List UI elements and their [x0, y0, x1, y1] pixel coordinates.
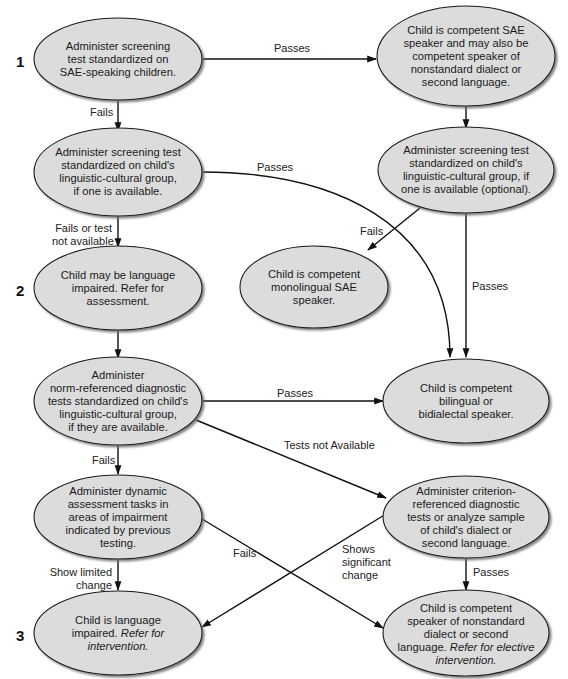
- text-line: change: [44, 579, 112, 592]
- text-line: assessment.: [61, 295, 175, 308]
- level-2-label: 2: [16, 282, 24, 299]
- node-text-may-be-impaired: Child may be languageimpaired. Refer for…: [44, 262, 192, 314]
- edge-label-passes-2: Passes: [257, 161, 293, 174]
- edge-norm-referenced-to-criterion-referenced: [196, 420, 386, 498]
- text-line: areas of impairment: [65, 511, 170, 524]
- node-text-competent-sae: Child is competent SAEspeaker and may al…: [386, 22, 546, 90]
- text-line: second language.: [407, 537, 525, 550]
- edge-label-passes-5: Passes: [473, 566, 509, 579]
- text-line: linguistic-cultural group,: [48, 408, 188, 421]
- text-line: not available: [52, 235, 112, 248]
- edge-label-fails-3: Fails: [92, 454, 115, 467]
- text-line: significant: [342, 556, 391, 569]
- text-line: nonstandard dialect or: [403, 63, 528, 76]
- node-text-impaired: Child is language impaired. Refer for in…: [44, 607, 192, 659]
- text-line: standardized on child's: [401, 157, 531, 170]
- text-line: dialect or second: [398, 628, 535, 641]
- node-text-competent-nonstandard: Child is competent speaker of nonstandar…: [390, 599, 542, 669]
- edge-label-fails-2: Fails: [360, 225, 383, 238]
- text-line: norm-referenced diagnostic: [48, 382, 188, 395]
- text-line: speaker and may also be: [403, 37, 528, 50]
- text-line: bidialectal speaker.: [418, 408, 513, 421]
- text-normal: language.: [398, 641, 447, 653]
- node-text-norm-referenced: Administernorm-referenced diagnostictest…: [36, 366, 200, 436]
- node-text-bilingual: Child is competentbilingual orbidialecta…: [396, 375, 536, 427]
- text-line: linguistic-cultural group,: [55, 172, 181, 185]
- text-line: referenced diagnostic: [407, 498, 525, 511]
- text-line: standardized on child's: [55, 159, 181, 172]
- edge-label-show-limited-change: Show limited change: [44, 566, 112, 592]
- text-line: SAE-speaking children.: [60, 66, 176, 79]
- text-line: if one is available.: [55, 185, 181, 198]
- text-line: speaker.: [268, 294, 360, 307]
- text-line: monolingual SAE: [268, 281, 360, 294]
- text-line: if they are available.: [48, 421, 188, 434]
- text-line: Child may be language: [61, 269, 175, 282]
- text-line: second language.: [403, 76, 528, 89]
- text-line: one is available (optional).: [401, 183, 531, 196]
- text-italic-referral: Refer for elective: [450, 641, 535, 653]
- node-text-dynamic-assessment: Administer dynamicassessment tasks inare…: [44, 482, 192, 552]
- text-italic-referral: Refer for: [121, 627, 165, 639]
- text-line: impaired. Refer for: [61, 282, 175, 295]
- edge-label-shows-significant-change: Shows significant change: [342, 543, 391, 582]
- text-italic-referral: intervention.: [398, 654, 535, 667]
- text-line: change: [342, 569, 391, 582]
- level-1-label: 1: [16, 53, 24, 70]
- text-line: linguistic-cultural group, if: [401, 170, 531, 183]
- text-line: Child is competent: [398, 602, 535, 615]
- text-line: speaker of nonstandard: [398, 615, 535, 628]
- text-line: Administer criterion-: [407, 485, 525, 498]
- text-line: test standardized on: [60, 53, 176, 66]
- text-line: Administer: [48, 369, 188, 382]
- text-line: Child is competent SAE: [403, 24, 528, 37]
- text-line-mixed: language. Refer for elective: [398, 641, 535, 654]
- node-text-screen-group: Administer screening teststandardized on…: [40, 142, 196, 202]
- text-line: Child is language: [72, 614, 165, 627]
- node-text-screen-group-optional: Administer screening teststandardized on…: [384, 140, 548, 200]
- node-text-monolingual-sae: Child is competentmonolingual SAEspeaker…: [254, 261, 374, 313]
- text-line: Shows: [342, 543, 391, 556]
- text-line: Fails or test: [52, 222, 112, 235]
- edge-label-tests-not-available: Tests not Available: [284, 439, 375, 452]
- edge-label-passes-4: Passes: [277, 387, 313, 400]
- edge-label-fails-or-test-not-available: Fails or test not available: [52, 222, 112, 248]
- node-text-criterion-referenced: Administer criterion-referenced diagnost…: [392, 482, 540, 552]
- text-italic-referral: intervention.: [72, 640, 165, 653]
- edge-label-fails-1: Fails: [90, 106, 113, 119]
- text-normal: impaired.: [72, 627, 118, 639]
- text-line-mixed: impaired. Refer for: [72, 627, 165, 640]
- edge-label-passes-1: Passes: [274, 42, 310, 55]
- text-line: Administer dynamic: [65, 485, 170, 498]
- text-line: Show limited: [44, 566, 112, 579]
- text-line: Child is competent: [418, 382, 513, 395]
- text-line: Administer screening test: [401, 144, 531, 157]
- text-line: Administer screening: [60, 40, 176, 53]
- edge-label-fails-4: Fails: [233, 547, 256, 560]
- edge-label-passes-3: Passes: [472, 280, 508, 293]
- text-line: indicated by previous: [65, 524, 170, 537]
- text-line: assessment tasks in: [65, 498, 170, 511]
- text-line: bilingual or: [418, 395, 513, 408]
- node-text-screen-sae: Administer screeningtest standardized on…: [44, 33, 192, 85]
- text-line: tests or analyze sample: [407, 511, 525, 524]
- text-line: Administer screening test: [55, 146, 181, 159]
- text-line: tests standardized on child's: [48, 395, 188, 408]
- text-line: testing.: [65, 537, 170, 550]
- text-line: competent speaker of: [403, 50, 528, 63]
- text-line: Child is competent: [268, 268, 360, 281]
- text-line: of child's dialect or: [407, 524, 525, 537]
- level-3-label: 3: [16, 627, 24, 644]
